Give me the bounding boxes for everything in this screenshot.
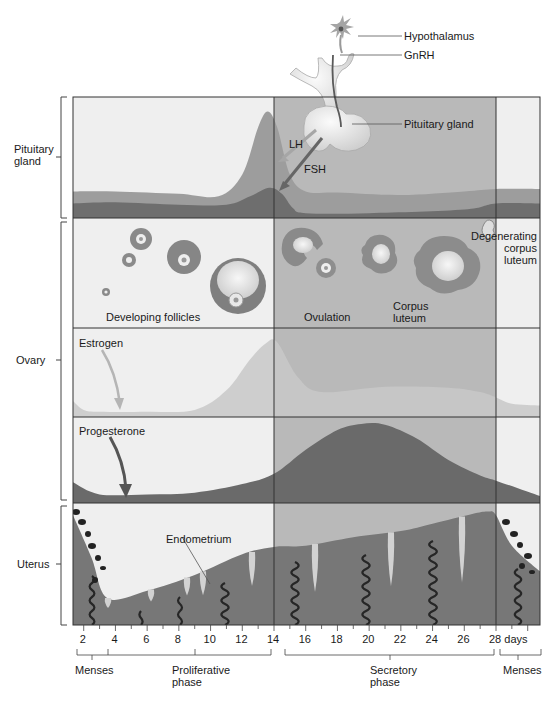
- phase-brackets: [77, 649, 541, 660]
- pituitary-gland-pointer-label: Pituitary gland: [404, 118, 474, 130]
- day-tick-label: 14: [267, 633, 279, 645]
- row-brackets: [56, 97, 67, 625]
- row-label-pituitary: Pituitary gland: [14, 143, 54, 167]
- day-tick-label: 22: [394, 633, 406, 645]
- day-tick-label: 16: [299, 633, 311, 645]
- fsh-label: FSH: [304, 163, 326, 175]
- day-tick-label: 28 days: [489, 633, 528, 645]
- day-tick-label: 12: [235, 633, 247, 645]
- phase-menses-start: Menses: [75, 664, 114, 676]
- day-tick-label: 24: [426, 633, 438, 645]
- menstrual-cycle-figure: [0, 0, 557, 701]
- row-label-uterus: Uterus: [17, 558, 49, 570]
- lh-label: LH: [289, 138, 303, 150]
- day-tick-label: 6: [143, 633, 149, 645]
- ovulation-label: Ovulation: [304, 311, 350, 323]
- degenerating-corpus-luteum-label: Degenerating corpus luteum: [471, 230, 537, 266]
- progesterone-label: Progesterone: [79, 425, 145, 437]
- gnrh-label: GnRH: [404, 49, 435, 61]
- developing-follicles-label: Developing follicles: [106, 311, 200, 323]
- corpus-luteum-label: Corpus luteum: [393, 300, 428, 324]
- day-axis-ticks: [84, 625, 528, 631]
- day-tick-label: 26: [457, 633, 469, 645]
- day-tick-label: 4: [111, 633, 117, 645]
- row-label-ovary: Ovary: [16, 354, 45, 366]
- day-tick-label: 10: [204, 633, 216, 645]
- day-tick-label: 2: [80, 633, 86, 645]
- endometrium-label: Endometrium: [166, 533, 231, 545]
- phase-proliferative: Proliferative phase: [172, 664, 230, 688]
- hypothalamus-label: Hypothalamus: [404, 30, 474, 42]
- day-tick-label: 8: [175, 633, 181, 645]
- phase-secretory: Secretory phase: [370, 664, 417, 688]
- day-tick-label: 20: [362, 633, 374, 645]
- estrogen-label: Estrogen: [79, 337, 123, 349]
- day-tick-label: 18: [330, 633, 342, 645]
- phase-menses-end: Menses: [503, 664, 542, 676]
